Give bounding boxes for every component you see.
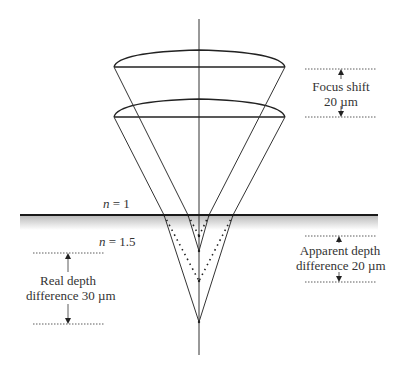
arrow-down-icon [336,276,342,282]
apparent-depth-line1: Apparent depth [296,243,384,258]
focus-shift-line1: Focus shift [311,79,371,94]
real-depth-line1: Real depth [26,273,110,288]
apparent-focus-shallow [198,235,200,237]
refraction-diagram [0,0,396,368]
apparent-depth-line2: difference 20 µm [296,258,384,273]
real-depth-line2: difference 30 µm [26,288,110,303]
medium-label-lower: n = 1.5 [99,234,136,249]
arrow-up-icon [336,236,342,242]
arrow-up-icon [65,253,71,259]
focus-shift-line2: 20 µm [311,94,371,109]
arrow-down-icon [338,111,344,117]
apparent-depth-label: Apparent depth difference 20 µm [296,243,384,273]
n-value: 1 [123,196,130,211]
real-focus-deep [198,321,200,323]
n-value: 1.5 [119,234,135,249]
arrow-up-icon [338,69,344,75]
n-symbol: n [103,196,110,211]
n-symbol: n [99,234,106,249]
real-depth-label: Real depth difference 30 µm [26,273,110,303]
medium-label-upper: n = 1 [103,196,130,211]
real-focus-shallow [198,250,200,252]
apparent-focus-deep [198,280,200,282]
focus-shift-label: Focus shift 20 µm [311,79,371,109]
arrow-down-icon [65,318,71,324]
